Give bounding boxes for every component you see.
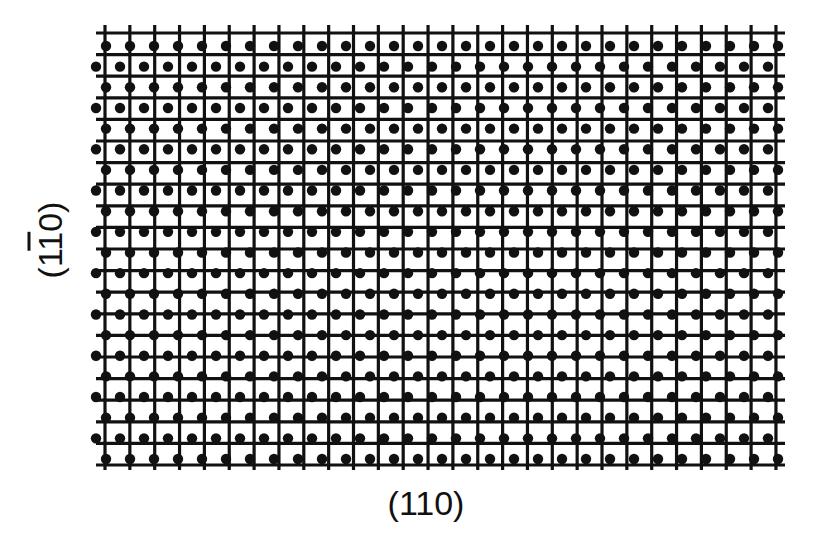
atom-dot bbox=[451, 61, 461, 71]
atom-dot bbox=[715, 433, 725, 443]
atom-dot bbox=[187, 351, 197, 361]
atom-dot bbox=[403, 309, 413, 319]
atom-dot bbox=[523, 61, 533, 71]
atom-dot bbox=[307, 392, 317, 402]
atom-dot bbox=[115, 144, 125, 154]
atom-dot bbox=[773, 206, 783, 216]
y-axis-label-overbar-digit: 1 bbox=[31, 232, 69, 251]
atom-dot bbox=[643, 61, 653, 71]
atom-dot bbox=[293, 371, 303, 381]
atom-dot bbox=[701, 123, 711, 133]
atom-dot bbox=[461, 165, 471, 175]
atom-dot bbox=[163, 103, 173, 113]
atom-dot bbox=[739, 309, 749, 319]
atom-dot bbox=[341, 371, 351, 381]
atom-dot bbox=[667, 392, 677, 402]
atom-dot bbox=[211, 309, 221, 319]
atom-dot bbox=[235, 144, 245, 154]
atom-dot bbox=[677, 247, 687, 257]
atom-dot bbox=[245, 206, 255, 216]
atom-dot bbox=[269, 371, 279, 381]
atom-dot bbox=[341, 41, 351, 51]
atom-dot bbox=[715, 144, 725, 154]
atom-dot bbox=[331, 268, 341, 278]
atom-dot bbox=[341, 289, 351, 299]
atom-dot bbox=[269, 330, 279, 340]
atom-dot bbox=[557, 330, 567, 340]
atom-dot bbox=[643, 351, 653, 361]
atom-dot bbox=[643, 309, 653, 319]
atom-dot bbox=[173, 330, 183, 340]
atom-dot bbox=[283, 392, 293, 402]
atom-dot bbox=[619, 144, 629, 154]
atom-dot bbox=[403, 268, 413, 278]
atom-dot bbox=[451, 227, 461, 237]
atom-dot bbox=[725, 330, 735, 340]
atom-dot bbox=[293, 123, 303, 133]
atom-dot bbox=[701, 247, 711, 257]
atom-dot bbox=[475, 103, 485, 113]
atom-dot bbox=[509, 123, 519, 133]
atom-dot bbox=[269, 41, 279, 51]
atom-dot bbox=[629, 413, 639, 423]
atom-dot bbox=[461, 123, 471, 133]
atom-dot bbox=[581, 247, 591, 257]
atom-dot bbox=[365, 206, 375, 216]
atom-dot bbox=[259, 392, 269, 402]
atom-dot bbox=[149, 371, 159, 381]
atom-dot bbox=[163, 309, 173, 319]
atom-dot bbox=[91, 61, 101, 71]
atom-dot bbox=[341, 206, 351, 216]
atom-dot bbox=[547, 103, 557, 113]
atom-dot bbox=[293, 413, 303, 423]
atom-dot bbox=[701, 371, 711, 381]
atom-dot bbox=[187, 144, 197, 154]
atom-dot bbox=[499, 268, 509, 278]
atom-dot bbox=[533, 123, 543, 133]
atom-dot bbox=[413, 289, 423, 299]
atom-dot bbox=[715, 351, 725, 361]
atom-dot bbox=[101, 289, 111, 299]
atom-dot bbox=[595, 309, 605, 319]
atom-dot bbox=[269, 289, 279, 299]
atom-dot bbox=[427, 61, 437, 71]
atom-dot bbox=[533, 247, 543, 257]
atom-dot bbox=[773, 413, 783, 423]
atom-dot bbox=[197, 165, 207, 175]
atom-dot bbox=[653, 41, 663, 51]
atom-dot bbox=[283, 309, 293, 319]
atom-dot bbox=[91, 103, 101, 113]
atom-dot bbox=[365, 413, 375, 423]
atom-dot bbox=[691, 227, 701, 237]
atom-dot bbox=[533, 454, 543, 464]
atom-dot bbox=[763, 144, 773, 154]
atom-dot bbox=[749, 206, 759, 216]
atom-dot bbox=[221, 123, 231, 133]
atom-dot bbox=[101, 371, 111, 381]
atom-dot bbox=[619, 268, 629, 278]
atom-dot bbox=[523, 103, 533, 113]
atom-dot bbox=[101, 165, 111, 175]
atom-dot bbox=[437, 41, 447, 51]
atom-dot bbox=[523, 351, 533, 361]
atom-dot bbox=[605, 289, 615, 299]
atom-dot bbox=[715, 61, 725, 71]
atom-dot bbox=[341, 330, 351, 340]
atom-dot bbox=[187, 185, 197, 195]
atom-dot bbox=[173, 165, 183, 175]
atom-dot bbox=[619, 227, 629, 237]
atom-dot bbox=[125, 454, 135, 464]
atom-dot bbox=[211, 392, 221, 402]
atom-dot bbox=[197, 289, 207, 299]
atom-dot bbox=[485, 371, 495, 381]
atom-dot bbox=[763, 392, 773, 402]
atom-dot bbox=[307, 227, 317, 237]
atom-dot bbox=[451, 185, 461, 195]
atom-dot bbox=[235, 433, 245, 443]
atom-dot bbox=[509, 330, 519, 340]
atom-dot bbox=[523, 144, 533, 154]
atom-dot bbox=[283, 268, 293, 278]
atom-dot bbox=[197, 41, 207, 51]
atom-dot bbox=[581, 165, 591, 175]
atom-dot bbox=[437, 371, 447, 381]
